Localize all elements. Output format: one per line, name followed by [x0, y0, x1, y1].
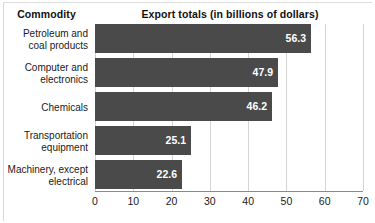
category-label: Petroleum andcoal products [0, 28, 88, 51]
x-tick-label: 20 [160, 195, 184, 207]
category-label-line: Petroleum and [0, 28, 88, 40]
bar: 22.6 [95, 160, 182, 189]
chart-row: Transportationequipment25.1 [0, 126, 375, 155]
bar-chart: Commodity Export totals (in billions of … [0, 0, 375, 223]
category-label: Chemicals [0, 102, 88, 114]
category-label: Machinery, exceptelectrical [0, 164, 88, 187]
bar: 25.1 [95, 126, 191, 155]
chart-row: Chemicals46.2 [0, 92, 375, 121]
x-tick-label: 70 [351, 195, 375, 207]
x-axis-line [95, 191, 363, 192]
category-label-line: electrical [0, 176, 88, 188]
category-label-line: equipment [0, 142, 88, 154]
x-tick-label: 30 [198, 195, 222, 207]
category-label-line: Chemicals [0, 102, 88, 114]
frame-top-border [3, 2, 372, 3]
category-label: Transportationequipment [0, 130, 88, 153]
bar: 56.3 [95, 24, 311, 53]
bar-value-label: 22.6 [157, 169, 177, 180]
category-label-line: Transportation [0, 130, 88, 142]
category-label-line: Computer and [0, 62, 88, 74]
bar: 46.2 [95, 92, 272, 121]
x-tick-label: 0 [83, 195, 107, 207]
category-label-line: coal products [0, 40, 88, 52]
column-header-export-totals: Export totals (in billions of dollars) [95, 8, 365, 20]
x-tick-label: 60 [313, 195, 337, 207]
chart-row: Machinery, exceptelectrical22.6 [0, 160, 375, 189]
chart-row: Computer andelectronics47.9 [0, 58, 375, 87]
bar-value-label: 47.9 [253, 67, 273, 78]
category-label-line: Machinery, except [0, 164, 88, 176]
bar: 47.9 [95, 58, 278, 87]
x-tick-label: 50 [274, 195, 298, 207]
x-tick-label: 40 [236, 195, 260, 207]
bar-value-label: 46.2 [247, 101, 267, 112]
category-label: Computer andelectronics [0, 62, 88, 85]
column-header-commodity: Commodity [0, 8, 93, 20]
chart-row: Petroleum andcoal products56.3 [0, 24, 375, 53]
x-tick-label: 10 [121, 195, 145, 207]
bar-value-label: 56.3 [286, 33, 306, 44]
category-label-line: electronics [0, 74, 88, 86]
bar-value-label: 25.1 [166, 135, 186, 146]
